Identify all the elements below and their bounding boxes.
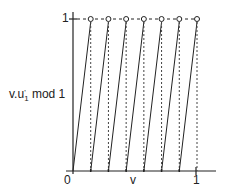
sawtooth-segment (73, 22, 91, 171)
y-axis-label-tail: mod 1 (29, 87, 66, 101)
open-circle-marker (106, 17, 111, 22)
sawtooth-segment (108, 22, 126, 171)
sawtooth-segment (162, 22, 180, 171)
x-origin-label: 0 (64, 174, 71, 186)
open-circle-marker (124, 17, 129, 22)
x-axis-label: v (130, 174, 136, 186)
open-circle-marker (141, 17, 146, 22)
sawtooth-segment (179, 22, 197, 171)
y-axis-label-main: v.u (9, 87, 24, 101)
y-tick-label: 1 (62, 12, 69, 24)
y-axis-label-sub: 1 (24, 94, 28, 103)
open-circle-marker (195, 17, 200, 22)
open-circle-marker (159, 17, 164, 22)
y-axis-label: v.u'1 mod 1 (9, 88, 65, 102)
open-circle-marker (177, 17, 182, 22)
sawtooth-segment (144, 22, 162, 171)
sawtooth-segment (91, 22, 109, 171)
open-circle-marker (88, 17, 93, 22)
x-tick-label: 1 (193, 174, 200, 186)
sawtooth-segment (126, 22, 144, 171)
